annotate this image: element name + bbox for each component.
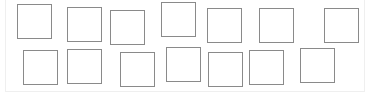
square-box-row2-7[interactable] [300, 48, 335, 83]
square-box-row1-3[interactable] [110, 10, 145, 45]
square-box-row1-6[interactable] [259, 8, 294, 43]
square-box-row1-7[interactable] [324, 8, 359, 43]
square-box-row1-5[interactable] [207, 8, 242, 43]
square-box-row2-5[interactable] [208, 52, 243, 87]
square-box-row1-4[interactable] [161, 2, 196, 37]
square-box-row2-1[interactable] [23, 50, 58, 85]
square-box-row2-2[interactable] [67, 49, 102, 84]
square-box-row2-6[interactable] [249, 50, 284, 85]
square-box-row2-4[interactable] [166, 47, 201, 82]
square-box-row1-2[interactable] [67, 7, 102, 42]
square-box-row2-3[interactable] [120, 52, 155, 87]
square-box-row1-1[interactable] [17, 4, 52, 39]
